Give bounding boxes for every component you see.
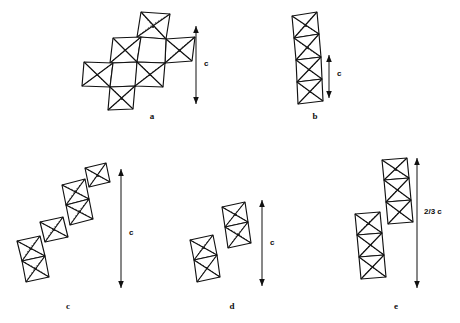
c-axis-arrow xyxy=(326,55,332,98)
c-axis-arrow xyxy=(118,169,124,288)
octahedron xyxy=(22,256,49,282)
panel-d: c d xyxy=(160,185,310,323)
panel-e: 2/3 c e xyxy=(330,150,460,323)
panel-c-axis-label: c xyxy=(129,228,133,237)
panel-c-drawing xyxy=(0,155,160,323)
octahedron xyxy=(194,255,220,282)
panel-a: c a xyxy=(0,0,230,140)
vacant-site xyxy=(110,62,137,87)
octahedron xyxy=(135,62,165,87)
panel-e-axis-label: 2/3 c xyxy=(424,207,442,216)
panel-c: c c xyxy=(0,155,160,323)
octahedron xyxy=(359,255,386,279)
octahedron xyxy=(382,158,409,180)
panel-c-label: c xyxy=(58,301,78,311)
octahedron xyxy=(384,178,411,202)
octahedron xyxy=(355,212,382,235)
c-axis-arrow xyxy=(414,158,420,288)
panel-d-label: d xyxy=(222,301,242,311)
panel-d-axis-label: c xyxy=(270,238,274,247)
octahedron xyxy=(225,222,251,248)
octahedron xyxy=(296,57,322,82)
octahedron xyxy=(82,62,113,87)
vacant-site xyxy=(137,37,166,63)
figure-canvas: c a xyxy=(0,0,460,323)
panel-b: c b xyxy=(280,0,460,140)
panel-b-axis-label: c xyxy=(337,69,341,78)
octahedron xyxy=(297,79,323,104)
panel-e-label: e xyxy=(386,301,406,311)
octahedron xyxy=(40,217,68,242)
panel-b-label: b xyxy=(305,111,325,121)
octahedron xyxy=(165,37,195,63)
panel-a-label: a xyxy=(142,111,162,121)
octahedron xyxy=(357,233,384,257)
panel-a-axis-label: c xyxy=(204,59,208,68)
octahedron xyxy=(294,34,321,60)
octahedron xyxy=(386,200,413,224)
c-axis-arrow xyxy=(259,200,265,286)
octahedron xyxy=(108,86,135,110)
panel-a-drawing xyxy=(0,0,230,140)
octahedron xyxy=(110,37,141,63)
panel-e-drawing xyxy=(330,150,460,323)
octahedron xyxy=(137,12,170,39)
octahedron xyxy=(85,163,110,187)
